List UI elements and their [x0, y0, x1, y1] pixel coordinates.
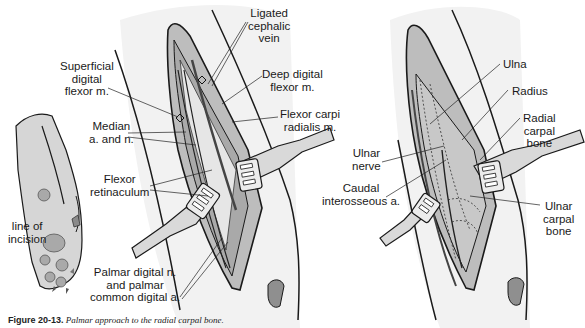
label-ulnar-nerve: Ulnar nerve	[352, 147, 381, 172]
label-ulnar-carpal-bone: Ulnar carpal bone	[543, 200, 574, 238]
label-radial-carpal-bone: Radial carpal bone	[523, 112, 556, 150]
paw-drawing	[16, 114, 82, 294]
anatomy-illustration	[0, 0, 585, 328]
digital-pad	[56, 259, 68, 271]
label-ulna: Ulna	[503, 58, 527, 71]
label-deep-digital-flexor: Deep digital flexor m.	[262, 68, 323, 93]
label-radius: Radius	[512, 85, 548, 98]
digital-pad	[56, 277, 66, 287]
figure-caption: Figure 20-13. Palmar approach to the rad…	[8, 315, 224, 325]
label-line-of-incision: line of incision	[8, 220, 46, 245]
label-superficial-digital-flexor: Superficial digital flexor m.	[60, 60, 114, 98]
label-ligated-cephalic-vein: Ligated cephalic vein	[248, 7, 290, 45]
figure-caption-text: Palmar approach to the radial carpal bon…	[66, 315, 224, 325]
digital-pad	[40, 255, 50, 265]
label-flexor-retinaculum: Flexor retinaculum	[90, 173, 149, 198]
figure-number: Figure 20-13.	[8, 315, 64, 325]
label-caudal-interosseous: Caudal interosseous a.	[322, 182, 400, 207]
deep-dissection	[380, 7, 584, 328]
label-median-artery-nerve: Median a. and n.	[89, 120, 134, 145]
label-palmar-digital: Palmar digital n. and palmar common digi…	[90, 266, 180, 304]
carpal-pad	[38, 189, 50, 201]
claw	[66, 288, 69, 294]
digital-pad	[45, 272, 55, 282]
label-flexor-carpi-radialis: Flexor carpi radialis m.	[280, 108, 340, 133]
